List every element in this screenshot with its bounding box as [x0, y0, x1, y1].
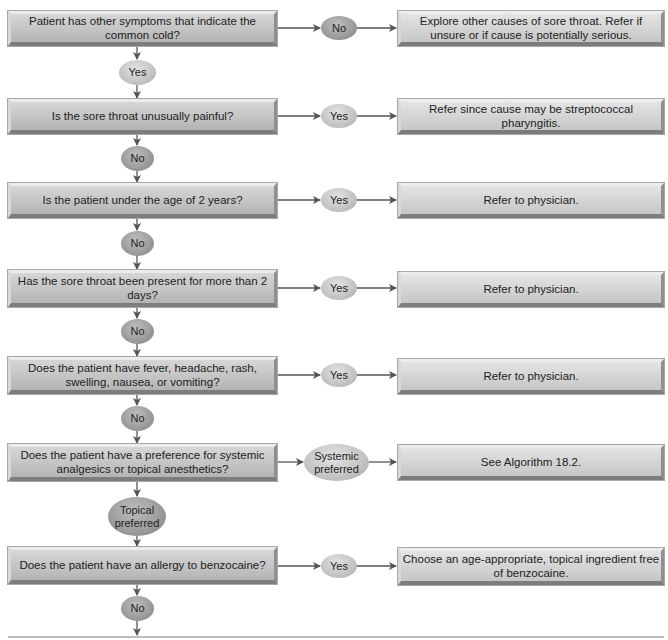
branch-oval-no: No	[121, 231, 154, 256]
flowchart-canvas: Patient has other symptoms that indicate…	[0, 0, 668, 640]
branch-oval-yes: Yes	[119, 60, 156, 85]
question-box-unusually-painful: Is the sore throat unusually painful?	[8, 99, 277, 134]
question-box-more-than-2-days: Has the sore throat been present for mor…	[8, 270, 277, 307]
connector-arrows	[0, 0, 668, 640]
branch-oval-no: No	[121, 146, 154, 171]
outcome-box-refer-physician: Refer to physician.	[398, 272, 664, 307]
outcome-box-strep-referral: Refer since cause may be streptococcal p…	[398, 99, 664, 134]
question-box-under-age-2: Is the patient under the age of 2 years?	[8, 183, 277, 218]
branch-oval-yes: Yes	[321, 276, 357, 300]
branch-oval-systemic-preferred: Systemic preferred	[304, 444, 369, 481]
branch-oval-yes: Yes	[321, 104, 357, 128]
continuation-divider	[8, 636, 664, 638]
branch-oval-no: No	[121, 596, 154, 621]
branch-oval-yes: Yes	[321, 188, 357, 212]
branch-oval-yes: Yes	[321, 363, 357, 387]
question-box-fever-headache: Does the patient have fever, headache, r…	[8, 357, 277, 394]
branch-oval-yes: Yes	[321, 554, 357, 578]
branch-oval-no: No	[121, 319, 154, 344]
outcome-box-refer-physician: Refer to physician.	[398, 183, 664, 218]
outcome-box-see-algorithm: See Algorithm 18.2.	[398, 445, 664, 480]
question-box-benzocaine-allergy: Does the patient have an allergy to benz…	[8, 547, 277, 584]
question-box-common-cold: Patient has other symptoms that indicate…	[8, 11, 277, 46]
branch-oval-no: No	[321, 16, 357, 40]
outcome-box-refer-physician: Refer to physician.	[398, 359, 664, 394]
outcome-box-explore-other-causes: Explore other causes of sore throat. Ref…	[398, 11, 664, 46]
branch-oval-topical-preferred: Topical preferred	[108, 497, 166, 536]
branch-oval-no: No	[121, 406, 154, 431]
outcome-box-benzocaine-free: Choose an age-appropriate, topical ingre…	[398, 548, 664, 585]
question-box-systemic-or-topical: Does the patient have a preference for s…	[8, 444, 277, 481]
